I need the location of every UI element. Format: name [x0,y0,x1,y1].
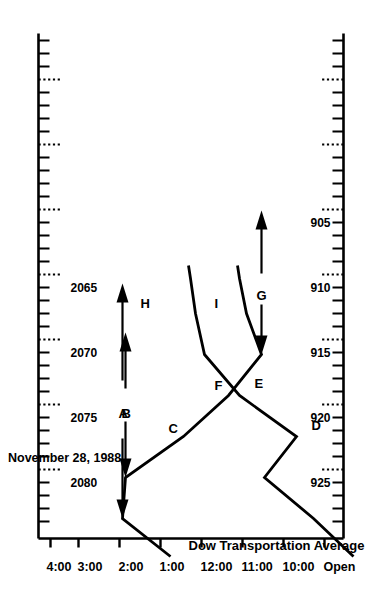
transportation-axis-caption: Dow Transportation Average [188,539,364,552]
point-label-c: C [168,422,177,435]
time-tick-300: 3:00 [77,561,102,574]
plot-area: 2080 2075 2070 2065 925 920 915 910 905 … [18,19,363,579]
time-tick-200: 2:00 [118,561,143,574]
value-tick-910: 910 [310,282,330,294]
point-label-i: I [214,297,218,310]
time-tick-1000: 10:00 [282,561,314,574]
time-tick-100: 1:00 [159,561,184,574]
point-label-h: H [140,297,149,310]
time-tick-1100: 11:00 [241,561,272,574]
value-tick-915: 915 [310,347,330,359]
value-tick-2075: 2075 [70,412,97,424]
point-label-e: E [254,377,263,390]
value-minor-ticks-bottom [332,41,343,522]
rotated-chart-group: 2080 2075 2070 2065 925 920 915 910 905 … [18,19,363,579]
value-tick-925: 925 [310,477,330,489]
time-tick-open: Open [323,561,355,574]
value-tick-2065: 2065 [70,282,97,294]
value-tick-2070: 2070 [70,347,97,359]
figure-title: November 28, 1988 [8,452,121,465]
time-tick-1200: 12:00 [200,561,232,574]
annotation-label-b: B [121,407,130,420]
annotation-arrow-g [255,211,267,355]
value-major-ticks-top [38,80,62,470]
point-label-d: D [311,419,320,432]
time-tick-400: 4:00 [46,561,71,574]
value-tick-2080: 2080 [70,477,97,489]
point-label-f: F [214,379,222,392]
figure-canvas: 2080 2075 2070 2065 925 920 915 910 905 … [0,0,381,597]
value-tick-905: 905 [310,217,330,229]
annotation-label-g: G [256,289,266,302]
chart-svg [18,19,363,579]
